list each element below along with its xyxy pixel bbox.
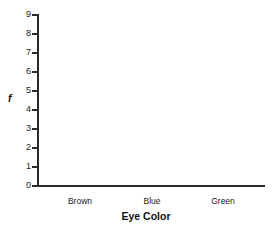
x-category-label-green: Green [211, 197, 235, 206]
y-tick-label: 4 [0, 105, 31, 114]
y-tick-mark [32, 128, 38, 130]
x-axis-title: Eye Color [121, 211, 170, 222]
y-tick-label-wrap: 2 [0, 143, 31, 153]
y-tick-label: 8 [0, 29, 31, 38]
y-tick-label: 1 [0, 162, 31, 171]
y-tick-mark [32, 33, 38, 35]
y-tick-mark [32, 71, 38, 73]
x-category-label-brown: Brown [68, 197, 92, 206]
y-tick-mark [32, 185, 38, 187]
y-axis-line [37, 14, 39, 187]
y-tick-label: 6 [0, 67, 31, 76]
y-tick-label: 2 [0, 143, 31, 152]
y-tick-label: 3 [0, 124, 31, 133]
y-tick-label: 7 [0, 48, 31, 57]
y-tick-mark [32, 90, 38, 92]
y-tick-mark [32, 147, 38, 149]
y-tick-label: 0 [0, 181, 31, 190]
y-tick-label-wrap: 7 [0, 48, 31, 58]
y-tick-label-wrap: 0 [0, 181, 31, 191]
plot-area [39, 14, 265, 185]
y-tick-label-wrap: 8 [0, 29, 31, 39]
y-tick-label-wrap: 9 [0, 10, 31, 20]
x-axis-line [37, 185, 265, 187]
x-category-label-blue: Blue [143, 197, 160, 206]
bar-chart-figure: 9 8 7 6 5 4 3 2 1 0 Brown Blue Green f E… [0, 0, 274, 234]
y-tick-mark [32, 52, 38, 54]
y-tick-label-wrap: 4 [0, 105, 31, 115]
y-tick-label-wrap: 6 [0, 67, 31, 77]
y-tick-label: 9 [0, 10, 31, 19]
y-tick-label: 5 [0, 86, 31, 95]
y-tick-label-wrap: 5 [0, 86, 31, 96]
y-tick-mark [32, 14, 38, 16]
y-axis-title: f [8, 93, 12, 104]
y-tick-label-wrap: 3 [0, 124, 31, 134]
y-tick-mark [32, 166, 38, 168]
y-tick-label-wrap: 1 [0, 162, 31, 172]
y-tick-mark [32, 109, 38, 111]
